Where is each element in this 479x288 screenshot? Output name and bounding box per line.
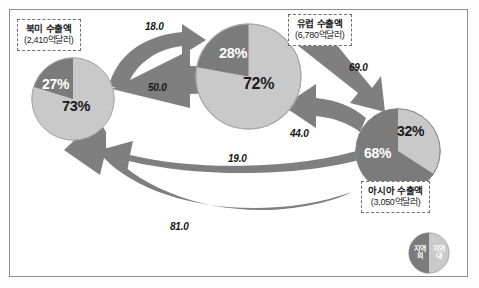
legend-label-inside-region: 지역내	[430, 245, 447, 260]
callout-eu-amount: (6,780억달러)	[295, 30, 345, 41]
flow-label-na-to-eu: 18.0	[145, 21, 164, 32]
legend-in-l2: 내	[436, 252, 442, 259]
pie-asia-outside-pct: 68%	[364, 145, 391, 161]
flow-label-eu-to-asia: 69.0	[349, 62, 368, 73]
callout-na-title: 북미 수출액	[24, 23, 74, 35]
diagram-canvas: 27% 73% 28% 72% 32% 68% 북미 수출액 (2,410억달러…	[0, 0, 479, 288]
callout-asia-amount: (3,050억달러)	[368, 197, 423, 208]
callout-europe: 유럽 수출액 (6,780억달러)	[288, 14, 352, 46]
callout-na-amount: (2,410억달러)	[24, 35, 74, 46]
callout-eu-title: 유럽 수출액	[295, 18, 345, 30]
legend-out-l1: 지역	[414, 245, 426, 252]
callout-asia: 아시아 수출액 (3,050억달러)	[361, 181, 430, 213]
pie-eu-outside-pct: 28%	[219, 45, 247, 61]
flow-label-asia-to-na: 19.0	[228, 153, 247, 164]
legend-in-l1: 지역	[433, 245, 445, 252]
callout-north-america: 북미 수출액 (2,410억달러)	[17, 19, 81, 51]
flow-label-eu-to-na: 50.0	[148, 82, 167, 93]
pie-na-outside-pct: 27%	[42, 76, 69, 92]
pie-na-inside-pct: 73%	[62, 98, 90, 114]
legend-label-outside-region: 지역외	[411, 245, 428, 260]
pie-eu-inside-pct: 72%	[243, 75, 274, 93]
flow-label-asia-to-eu: 44.0	[290, 128, 309, 139]
pie-asia-inside-pct: 32%	[397, 123, 424, 139]
legend-out-l2: 외	[417, 252, 423, 259]
flow-label-na-to-asia: 81.0	[170, 221, 189, 232]
callout-asia-title: 아시아 수출액	[368, 185, 423, 197]
